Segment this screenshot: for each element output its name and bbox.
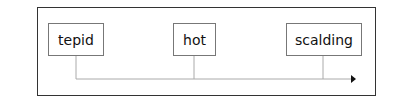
- node-label: hot: [183, 32, 206, 48]
- node-hot: hot: [173, 23, 216, 56]
- node-label: scalding: [295, 32, 353, 48]
- node-label: tepid: [58, 32, 94, 48]
- arrowhead-icon: [351, 75, 356, 83]
- node-scalding: scalding: [286, 23, 362, 56]
- node-tepid: tepid: [48, 23, 104, 56]
